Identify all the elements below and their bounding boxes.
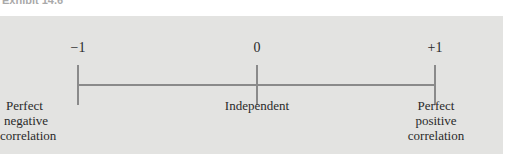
- label-plus-one: +1: [415, 40, 455, 56]
- desc-independent: Independent: [197, 98, 317, 113]
- desc-negative-line: negative: [0, 113, 84, 128]
- desc-negative: Perfect negative correlation: [0, 98, 84, 143]
- desc-positive-line: correlation: [376, 128, 496, 143]
- desc-positive-line: positive: [376, 113, 496, 128]
- label-minus-one: −1: [58, 40, 98, 56]
- desc-negative-line: correlation: [0, 128, 84, 143]
- desc-positive-line: Perfect: [376, 98, 496, 113]
- diagram-panel: −1 0 +1 Perfect negative correlation Ind…: [0, 16, 503, 154]
- label-zero: 0: [237, 40, 277, 56]
- exhibit-caption: Exhibit 14.6: [2, 0, 63, 6]
- desc-independent-line: Independent: [197, 98, 317, 113]
- desc-positive: Perfect positive correlation: [376, 98, 496, 143]
- desc-negative-line: Perfect: [0, 98, 84, 113]
